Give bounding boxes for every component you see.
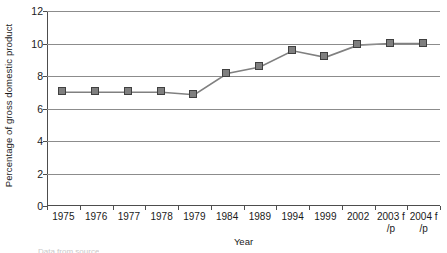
x-axis-tick-label-line1: 1984	[216, 211, 238, 222]
gridline	[47, 44, 440, 45]
x-axis-tick-label-line1: 2002	[347, 211, 369, 222]
data-point-marker[interactable]	[189, 90, 197, 98]
y-axis-tick-label: 8	[3, 71, 43, 81]
x-axis-tick-label: 1975	[47, 211, 80, 223]
x-axis-tick-label-line2: /p	[407, 223, 440, 235]
data-point-marker[interactable]	[386, 39, 394, 47]
gridline	[47, 109, 440, 110]
x-axis-tick-label-line1: 2003 f	[377, 211, 405, 222]
x-axis-tick-label-line1: 1975	[52, 211, 74, 222]
y-axis-tick-mark	[43, 44, 47, 45]
x-axis-tick-label: 2003 f/p	[375, 211, 408, 235]
x-axis-tick-mark	[407, 206, 408, 210]
x-axis-tick-mark	[276, 206, 277, 210]
data-point-marker[interactable]	[91, 87, 99, 95]
x-axis-tick-label-line1: 2004 f	[410, 211, 438, 222]
y-axis-tick-label: 10	[3, 39, 43, 49]
x-axis-tick-label-line2: /p	[375, 223, 408, 235]
x-axis-tick-mark	[113, 206, 114, 210]
y-axis-tick-label: 6	[3, 104, 43, 114]
y-axis-tick-mark	[43, 141, 47, 142]
y-axis-tick-label: 0	[3, 201, 43, 211]
x-axis-tick-mark	[178, 206, 179, 210]
gridline	[47, 76, 440, 77]
x-axis-tick-mark	[440, 206, 441, 210]
x-axis-tick-label-line1: 1994	[282, 211, 304, 222]
gridline	[47, 174, 440, 175]
data-point-marker[interactable]	[320, 52, 328, 60]
x-axis-tick-label: 2002	[342, 211, 375, 223]
y-axis-tick-mark	[43, 76, 47, 77]
series-path	[63, 44, 423, 95]
x-axis-tick-mark	[375, 206, 376, 210]
x-axis-tick-label-line1: 1979	[183, 211, 205, 222]
x-axis-tick-label: 1999	[309, 211, 342, 223]
x-axis-tick-mark	[47, 206, 48, 210]
x-axis-tick-mark	[244, 206, 245, 210]
x-axis-tick-label-line1: 1976	[85, 211, 107, 222]
y-axis-tick-label: 12	[3, 6, 43, 16]
x-axis-tick-label: 1989	[244, 211, 277, 223]
data-point-marker[interactable]	[255, 62, 263, 70]
x-axis-tick-label: 2004 f/p	[407, 211, 440, 235]
data-point-marker[interactable]	[419, 39, 427, 47]
data-point-marker[interactable]	[157, 87, 165, 95]
data-point-marker[interactable]	[222, 69, 230, 77]
x-axis-tick-label-line1: 1978	[151, 211, 173, 222]
y-axis-tick-label: 4	[3, 136, 43, 146]
x-axis-tick-label: 1978	[145, 211, 178, 223]
y-axis-tick-mark	[43, 174, 47, 175]
x-axis-tick-label: 1994	[276, 211, 309, 223]
x-axis-tick-mark	[80, 206, 81, 210]
x-axis-tick-mark	[309, 206, 310, 210]
x-axis-tick-label: 1977	[113, 211, 146, 223]
y-axis-tick-labels: 024681012	[0, 11, 43, 206]
clipped-caption: Data from source	[38, 247, 99, 253]
chart-figure: Percentage of gross domestic product 024…	[0, 0, 447, 253]
y-axis-tick-mark	[43, 11, 47, 12]
y-axis-tick-label: 2	[3, 169, 43, 179]
plot-area	[47, 11, 440, 206]
x-axis-tick-mark	[342, 206, 343, 210]
x-axis-tick-label-line1: 1977	[118, 211, 140, 222]
x-axis-tick-label-line1: 1999	[314, 211, 336, 222]
x-axis-tick-mark	[211, 206, 212, 210]
data-point-marker[interactable]	[58, 87, 66, 95]
x-axis-tick-mark	[145, 206, 146, 210]
x-axis-tick-label: 1976	[80, 211, 113, 223]
data-point-marker[interactable]	[288, 46, 296, 54]
x-axis-tick-label-line1: 1989	[249, 211, 271, 222]
data-point-marker[interactable]	[124, 87, 132, 95]
x-axis-title: Year	[47, 236, 440, 247]
data-point-marker[interactable]	[353, 40, 361, 48]
gridline	[47, 141, 440, 142]
x-axis-tick-label: 1979	[178, 211, 211, 223]
gridline	[47, 11, 440, 12]
x-axis-tick-label: 1984	[211, 211, 244, 223]
y-axis-tick-mark	[43, 109, 47, 110]
